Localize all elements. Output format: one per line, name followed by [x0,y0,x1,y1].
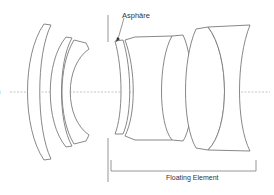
lens-element-1 [28,24,52,160]
lens-diagram [0,0,274,195]
asphere-label: Asphäre [122,11,150,20]
lens-element-4-asphere [115,40,130,134]
asphere-pointer-line [118,18,124,39]
floating-element-label: Floating Element [166,174,219,181]
